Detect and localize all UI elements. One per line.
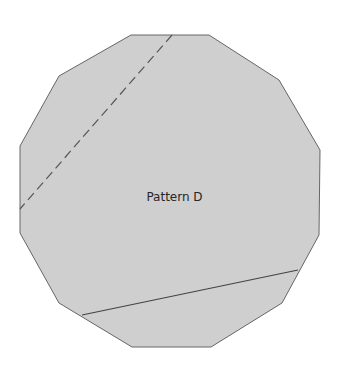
pattern-diagram: [0, 0, 340, 374]
pattern-label: Pattern D: [0, 190, 340, 204]
diagram-canvas: Pattern D: [0, 0, 340, 374]
